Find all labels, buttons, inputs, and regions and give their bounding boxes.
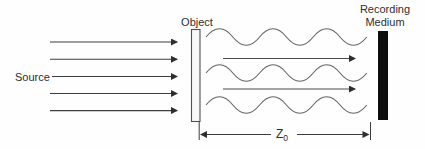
recording-medium-rect	[378, 31, 388, 120]
dimension-label-sub: 0	[283, 133, 288, 143]
diagram-canvas: Source Object Recording Medium	[0, 0, 425, 149]
recording-medium-label-line2: Medium	[365, 16, 404, 28]
object-rect	[192, 30, 201, 122]
recording-medium-label-line1: Recording	[360, 3, 410, 15]
hologram-recording-diagram: Source Object Recording Medium	[0, 0, 425, 149]
dimension-z0: Z0	[199, 122, 370, 143]
wave	[206, 29, 367, 46]
wave	[206, 65, 367, 82]
dimension-label: Z0	[276, 127, 288, 143]
wave	[206, 97, 367, 114]
object-label: Object	[181, 16, 213, 28]
plane-wave-arrows	[50, 42, 177, 111]
transmitted-waves	[206, 29, 367, 114]
dimension-label-main: Z	[276, 127, 283, 141]
transmitted-arrows	[223, 59, 355, 90]
source-label: Source	[15, 71, 50, 83]
